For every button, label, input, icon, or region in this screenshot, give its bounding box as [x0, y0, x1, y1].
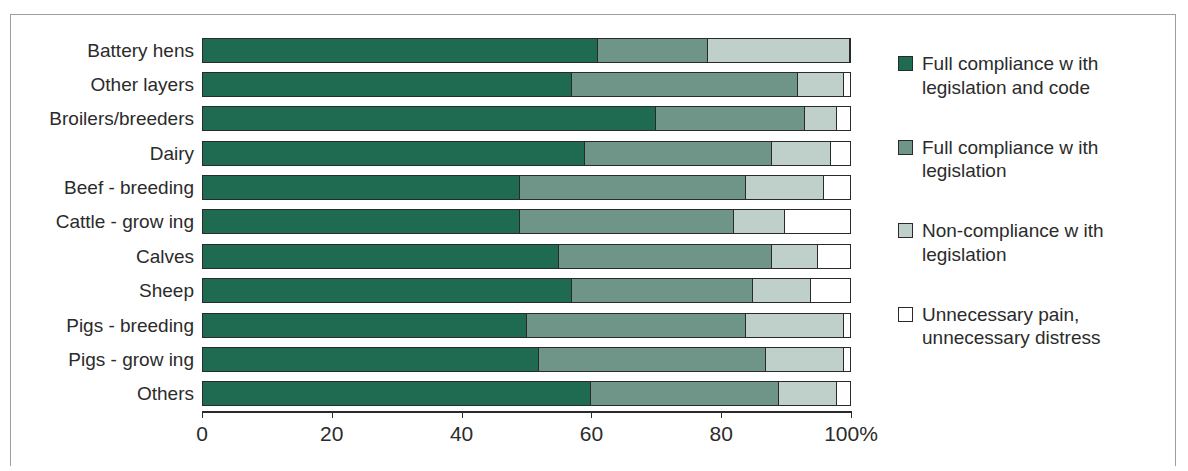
legend-label: Full compliance w ith legislation and co… [922, 52, 1176, 100]
bar-row [202, 170, 851, 204]
bar-segment[interactable] [811, 279, 850, 302]
stacked-bar[interactable] [202, 38, 851, 63]
stacked-bar[interactable] [202, 381, 851, 406]
bar-segment[interactable] [844, 348, 850, 371]
bar-segment[interactable] [708, 39, 850, 62]
bar-segment[interactable] [798, 73, 843, 96]
bar-row [202, 377, 851, 411]
bar-segment[interactable] [753, 279, 811, 302]
bar-row [202, 67, 851, 101]
stacked-bar[interactable] [202, 278, 851, 303]
legend-swatch-full-compliance [898, 140, 913, 155]
bar-segment[interactable] [539, 348, 765, 371]
category-label: Calves [14, 239, 200, 273]
legend-label: Non-compliance w ith legislation [922, 219, 1176, 267]
stacked-bar[interactable] [202, 141, 851, 166]
bar-segment[interactable] [837, 382, 850, 405]
stacked-bar[interactable] [202, 72, 851, 97]
bar-segment[interactable] [203, 382, 591, 405]
bar-segment[interactable] [559, 245, 773, 268]
x-axis-tick [851, 411, 852, 418]
category-label: Pigs - grow ing [14, 342, 200, 376]
bar-segment[interactable] [572, 73, 798, 96]
x-axis-ticks [202, 411, 851, 419]
bar-segment[interactable] [203, 39, 598, 62]
stacked-bar-chart: Battery hensOther layersBroilers/breeder… [0, 0, 1188, 471]
bar-segment[interactable] [203, 314, 527, 337]
category-label: Dairy [14, 136, 200, 170]
bar-segment[interactable] [837, 107, 850, 130]
category-label: Battery hens [14, 33, 200, 67]
bar-segment[interactable] [844, 73, 850, 96]
category-label: Sheep [14, 274, 200, 308]
bar-segment[interactable] [734, 210, 786, 233]
bar-segment[interactable] [585, 142, 773, 165]
bar-segment[interactable] [656, 107, 805, 130]
bar-segment[interactable] [527, 314, 747, 337]
legend-label: Unnecessary pain, unnecessary distress [922, 303, 1176, 351]
stacked-bar[interactable] [202, 106, 851, 131]
bar-segment[interactable] [203, 210, 520, 233]
bar-segment[interactable] [824, 176, 850, 199]
category-label: Beef - breeding [14, 170, 200, 204]
legend-item[interactable]: Unnecessary pain, unnecessary distress [898, 303, 1176, 351]
category-label: Cattle - grow ing [14, 205, 200, 239]
stacked-bar[interactable] [202, 313, 851, 338]
bar-segment[interactable] [805, 107, 837, 130]
stacked-bar[interactable] [202, 347, 851, 372]
bar-segment[interactable] [844, 314, 850, 337]
x-axis-tick [721, 411, 722, 418]
category-label: Pigs - breeding [14, 308, 200, 342]
category-label: Other layers [14, 67, 200, 101]
legend-item[interactable]: Non-compliance w ith legislation [898, 219, 1176, 267]
bar-segment[interactable] [203, 279, 572, 302]
x-axis-tick-label: 0 [196, 423, 208, 445]
bar-segment[interactable] [818, 245, 850, 268]
bar-segment[interactable] [766, 348, 844, 371]
bar-row [202, 205, 851, 239]
stacked-bar[interactable] [202, 175, 851, 200]
bar-segment[interactable] [203, 176, 520, 199]
bar-segment[interactable] [746, 176, 824, 199]
bar-segment[interactable] [772, 142, 830, 165]
category-label: Broilers/breeders [14, 102, 200, 136]
bar-segment[interactable] [746, 314, 843, 337]
bar-segment[interactable] [203, 245, 559, 268]
legend-item[interactable]: Full compliance w ith legislation [898, 136, 1176, 184]
bar-segment[interactable] [779, 382, 837, 405]
chart-legend: Full compliance w ith legislation and co… [898, 52, 1176, 350]
legend-label: Full compliance w ith legislation [922, 136, 1176, 184]
bar-segment[interactable] [203, 107, 656, 130]
x-axis-tick-label: 60 [580, 423, 603, 445]
bar-segment[interactable] [203, 348, 539, 371]
legend-swatch-unnecessary-pain [898, 307, 913, 322]
bar-segment[interactable] [520, 176, 746, 199]
legend-item[interactable]: Full compliance w ith legislation and co… [898, 52, 1176, 100]
category-label: Others [14, 377, 200, 411]
bar-segment[interactable] [831, 142, 850, 165]
x-axis-tick-label: 80 [710, 423, 733, 445]
bar-segment[interactable] [572, 279, 753, 302]
bar-series-container [202, 33, 851, 411]
x-axis-tick [591, 411, 592, 418]
bar-row [202, 136, 851, 170]
legend-swatch-full-compliance-code [898, 56, 913, 71]
bar-segment[interactable] [203, 142, 585, 165]
bar-row [202, 239, 851, 273]
stacked-bar[interactable] [202, 209, 851, 234]
bar-segment[interactable] [772, 245, 817, 268]
x-axis-tick [332, 411, 333, 418]
bar-segment[interactable] [203, 73, 572, 96]
plot-area [202, 33, 851, 411]
stacked-bar[interactable] [202, 244, 851, 269]
x-axis-tick-label: 20 [320, 423, 343, 445]
bar-segment[interactable] [520, 210, 734, 233]
bar-segment[interactable] [785, 210, 850, 233]
bar-segment[interactable] [598, 39, 708, 62]
x-axis-tick [202, 411, 203, 418]
x-axis-tick [462, 411, 463, 418]
bar-row [202, 342, 851, 376]
legend-swatch-non-compliance [898, 223, 913, 238]
x-axis-tick-label: 40 [450, 423, 473, 445]
bar-segment[interactable] [591, 382, 779, 405]
